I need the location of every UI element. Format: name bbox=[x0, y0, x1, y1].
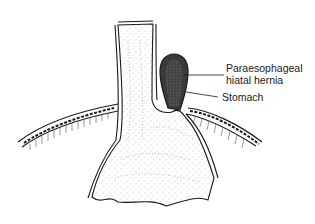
stomach-leader-line bbox=[186, 92, 218, 97]
hernia-diagram bbox=[0, 0, 315, 224]
left-diaphragm bbox=[18, 104, 118, 150]
hernia-label-line2: hiatal hernia bbox=[226, 74, 283, 86]
hernia-label-line1: Paraesophageal bbox=[226, 62, 302, 74]
paraesophageal-hernia bbox=[160, 54, 188, 110]
stomach-label: Stomach bbox=[222, 91, 263, 103]
